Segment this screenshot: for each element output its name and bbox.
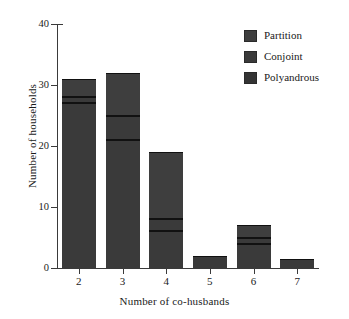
y-axis-top-cap [57, 24, 63, 25]
bar-segment-polyandrous[interactable] [193, 256, 227, 268]
bar-segment-polyandrous[interactable] [106, 140, 140, 268]
bar-segment-polyandrous[interactable] [280, 259, 314, 268]
bar-segment-partition[interactable] [62, 79, 96, 97]
x-axis-line [57, 268, 319, 269]
legend-item-conjoint[interactable]: Conjoint [244, 47, 349, 66]
x-tick-label: 2 [59, 275, 99, 288]
bar-segment-partition[interactable] [149, 152, 183, 219]
y-tick-label: 10 [19, 202, 49, 213]
y-tick-mark [51, 85, 57, 86]
bar-segment-partition[interactable] [106, 73, 140, 116]
x-tick-mark [210, 269, 211, 274]
y-tick-mark [51, 146, 57, 147]
bar-segment-polyandrous[interactable] [237, 244, 271, 268]
stacked-bar-chart: Number of households Number of co-husban… [0, 0, 349, 319]
bar-segment-conjoint[interactable] [149, 219, 183, 231]
bar-3[interactable] [106, 73, 140, 268]
x-tick-label: 5 [190, 275, 230, 288]
x-tick-mark [254, 269, 255, 274]
bar-2[interactable] [62, 79, 96, 268]
y-tick-mark [51, 24, 57, 25]
y-axis-tick-labels: 010203040 [17, 24, 49, 269]
bar-7[interactable] [280, 259, 314, 268]
y-tick-label: 30 [19, 80, 49, 91]
legend: PartitionConjointPolyandrous [244, 26, 349, 89]
bar-segment-conjoint[interactable] [62, 97, 96, 103]
bar-segment-polyandrous[interactable] [149, 231, 183, 268]
y-tick-label: 0 [19, 263, 49, 274]
x-tick-label: 7 [277, 275, 317, 288]
legend-item-polyandrous[interactable]: Polyandrous [244, 68, 349, 87]
x-tick-label: 3 [103, 275, 143, 288]
legend-label: Conjoint [264, 51, 303, 62]
y-tick-label: 20 [19, 141, 49, 152]
x-axis-title: Number of co-husbands [0, 295, 349, 307]
legend-swatch-icon [244, 30, 257, 42]
y-tick-mark [51, 207, 57, 208]
bar-5[interactable] [193, 256, 227, 268]
bar-segment-conjoint[interactable] [237, 238, 271, 244]
legend-item-partition[interactable]: Partition [244, 26, 349, 45]
x-tick-mark [123, 269, 124, 274]
bar-4[interactable] [149, 152, 183, 268]
legend-swatch-icon [244, 72, 257, 84]
y-tick-label: 40 [19, 19, 49, 30]
legend-swatch-icon [244, 51, 257, 63]
y-tick-mark [51, 268, 57, 269]
bar-segment-conjoint[interactable] [106, 116, 140, 140]
legend-label: Polyandrous [264, 72, 319, 83]
bar-segment-polyandrous[interactable] [62, 103, 96, 268]
bar-6[interactable] [237, 225, 271, 268]
x-tick-label: 4 [146, 275, 186, 288]
bar-segment-partition[interactable] [237, 225, 271, 237]
legend-label: Partition [264, 30, 302, 41]
x-tick-mark [166, 269, 167, 274]
x-tick-mark [297, 269, 298, 274]
y-axis-line [57, 24, 58, 269]
x-tick-mark [79, 269, 80, 274]
x-tick-label: 6 [234, 275, 274, 288]
